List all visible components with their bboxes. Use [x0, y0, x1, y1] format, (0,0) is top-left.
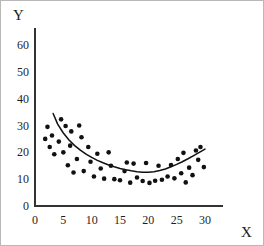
data-point	[112, 177, 117, 182]
data-point	[198, 145, 203, 150]
data-point	[88, 159, 93, 164]
x-axis-title: X	[241, 225, 252, 240]
data-point	[102, 176, 107, 181]
data-point	[156, 163, 161, 168]
data-points-group	[43, 117, 206, 185]
y-tick-label-40: 40	[7, 93, 29, 105]
data-point	[69, 129, 74, 134]
data-point	[144, 161, 149, 166]
data-point	[81, 169, 86, 174]
data-point	[92, 174, 97, 179]
scatter-plot-canvas	[1, 1, 264, 246]
data-point	[68, 143, 73, 148]
data-point	[52, 152, 57, 157]
x-tick-label-25: 25	[166, 214, 188, 226]
x-tick-label-30: 30	[194, 214, 216, 226]
x-tick-label-20: 20	[137, 214, 159, 226]
data-point	[50, 133, 55, 138]
data-point	[75, 157, 80, 162]
data-point	[66, 163, 71, 168]
data-point	[160, 177, 165, 182]
data-point	[165, 174, 170, 179]
x-tick-label-0: 0	[24, 214, 46, 226]
axes-group	[35, 29, 222, 206]
data-point	[140, 179, 145, 184]
data-point	[59, 117, 64, 122]
data-point	[57, 139, 62, 144]
y-tick-label-30: 30	[7, 120, 29, 132]
data-point	[79, 135, 84, 140]
data-point	[61, 150, 66, 155]
fitted-curve-path	[53, 113, 205, 172]
data-point	[176, 157, 181, 162]
y-tick-label-60: 60	[7, 39, 29, 51]
data-point	[169, 163, 174, 168]
data-point	[106, 150, 111, 155]
data-point	[128, 180, 133, 185]
data-point	[125, 160, 130, 165]
data-point	[147, 181, 152, 186]
data-point	[202, 165, 207, 170]
y-tick-label-50: 50	[7, 66, 29, 78]
data-point	[183, 180, 188, 185]
data-point	[43, 137, 48, 142]
data-point	[71, 170, 76, 175]
x-tick-label-15: 15	[109, 214, 131, 226]
data-point	[122, 169, 127, 174]
data-point	[194, 148, 199, 153]
data-point	[109, 163, 114, 168]
data-point	[153, 178, 158, 183]
x-tick-label-5: 5	[52, 214, 74, 226]
data-point	[86, 145, 91, 150]
trend-curve	[53, 113, 205, 172]
data-point	[98, 166, 103, 171]
data-point	[181, 151, 186, 156]
y-tick-label-20: 20	[7, 146, 29, 158]
data-point	[118, 178, 123, 183]
data-point	[179, 171, 184, 176]
data-point	[47, 145, 52, 150]
data-point	[172, 176, 177, 181]
data-point	[95, 151, 100, 156]
y-tick-label-10: 10	[7, 173, 29, 185]
data-point	[63, 124, 68, 129]
data-point	[196, 158, 201, 163]
data-point	[190, 173, 195, 178]
data-point	[77, 123, 82, 128]
data-point	[187, 165, 192, 170]
x-tick-label-10: 10	[81, 214, 103, 226]
data-point	[45, 125, 50, 130]
data-point	[131, 161, 136, 166]
chart-figure: Y X 0102030405060 051015202530	[0, 0, 264, 246]
y-tick-label-0: 0	[7, 200, 29, 212]
y-axis-title: Y	[13, 8, 24, 23]
data-point	[135, 175, 140, 180]
